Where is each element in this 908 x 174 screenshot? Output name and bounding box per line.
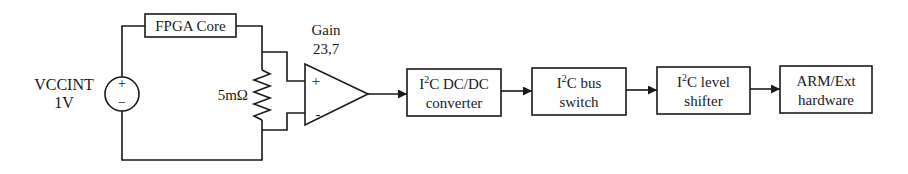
svg-text:switch: switch [559,94,599,110]
resistor-icon [254,70,270,120]
svg-text:converter: converter [426,95,483,111]
source-label: VCCINT [34,76,94,93]
fpga-core-label: FPGA Core [155,18,226,34]
circuit-wires [122,26,305,160]
amp-plus: + [312,73,320,89]
amp-gain-label: Gain [311,22,341,38]
svg-text:I2C DC/DC: I2C DC/DC [419,74,489,92]
block-arm-hardware: ARM/Ext hardware [780,66,872,113]
block-level-shifter: I2C level shifter [657,67,750,114]
block-dcdc-converter: I2C DC/DC converter [407,69,501,116]
block-diagram: + − VCCINT 1V FPGA Core 5mΩ + - Gain 23,… [0,0,908,174]
source-plus: + [118,76,126,91]
shunt-label: 5mΩ [218,87,248,103]
amplifier: + - Gain 23,7 [305,22,368,125]
amp-gain-value: 23,7 [313,41,340,57]
voltage-source: + − VCCINT 1V [34,76,139,111]
block-bus-switch: I2C bus switch [532,68,626,115]
svg-text:hardware: hardware [798,92,854,108]
shunt-resistor: 5mΩ [218,70,270,120]
source-voltage: 1V [54,94,74,111]
source-minus: − [118,95,126,110]
fpga-core-block: FPGA Core [145,14,236,37]
svg-text:shifter: shifter [684,93,722,109]
amp-minus: - [316,106,321,122]
svg-text:ARM/Ext: ARM/Ext [796,73,856,89]
